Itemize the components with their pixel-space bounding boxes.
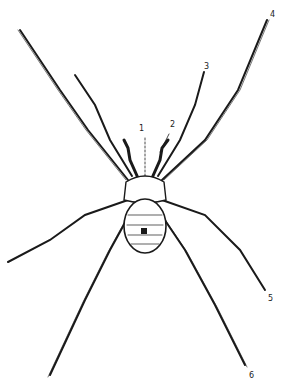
label-1: 1 [139, 124, 144, 133]
label-5: 5 [268, 294, 273, 303]
leg-right-4 [158, 210, 245, 365]
label-4: 4 [270, 10, 275, 19]
label-3: 3 [204, 62, 209, 71]
leg-left-2 [75, 75, 132, 176]
label-2: 2 [170, 120, 175, 129]
leg-left-4 [50, 210, 132, 375]
leg-left-3 [8, 200, 128, 262]
leg-right-1 [162, 20, 267, 180]
pedipalp-left [124, 140, 138, 178]
arachnid-illustration [0, 0, 290, 392]
leg-right-2 [158, 72, 204, 176]
abdomen [124, 199, 166, 253]
pointer-line-2 [160, 134, 169, 152]
leg-left-1 [20, 30, 128, 180]
label-6: 6 [249, 371, 254, 380]
leg-right-3 [162, 200, 265, 290]
